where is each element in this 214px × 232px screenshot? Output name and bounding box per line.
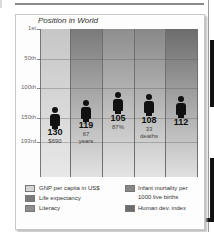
ytick-1st: 1st (12, 25, 36, 31)
legend-swatch-infant (125, 185, 135, 192)
right-black-bar (210, 158, 214, 222)
tick-mark (37, 88, 40, 89)
person-icon (176, 96, 186, 118)
gridline (40, 88, 198, 89)
tick-mark (37, 118, 40, 119)
rank-sublabel: $690 (40, 138, 70, 145)
ytick-150th: 150th (12, 114, 36, 120)
rank-value: 105 (103, 113, 133, 123)
rank-sublabel: years (71, 138, 101, 145)
rank-value: 108 (134, 115, 164, 125)
person-icon (81, 100, 91, 122)
tick-mark (37, 29, 40, 30)
chart-title: Position in World (38, 16, 98, 25)
person-icon (50, 107, 60, 129)
legend-swatch-literacy (25, 205, 35, 212)
column-gnp (40, 29, 71, 177)
legend-label-infant: Infant mortality per (138, 184, 188, 192)
legend-swatch-life (25, 195, 35, 202)
rank-sublabel: deaths (134, 133, 164, 140)
rank-sublabel: 67 (71, 131, 101, 138)
top-rule (15, 3, 204, 5)
legend-label-literacy: Literacy (39, 204, 60, 212)
right-rule (208, 0, 209, 232)
gridline (40, 59, 198, 60)
rank-sublabel: 87% (103, 124, 133, 131)
ytick-193rd: 193rd (12, 138, 36, 144)
ytick-50th: 50th (12, 55, 36, 61)
legend-label-hdi: Human dev. index (138, 204, 186, 212)
legend-swatch-gnp (25, 185, 35, 192)
left-edge-mark (0, 0, 2, 8)
legend-label-infant-2: 1000 live births (138, 193, 178, 201)
right-black-foot (205, 218, 214, 222)
person-icon (144, 94, 154, 116)
ytick-100th: 100th (12, 84, 36, 90)
rank-sublabel: 33 (134, 126, 164, 133)
right-black-bar (210, 40, 214, 107)
legend-label-gnp: GNP per capita in US$ (39, 184, 100, 192)
rank-value: 112 (166, 117, 196, 127)
rank-value: 119 (71, 120, 101, 130)
tick-mark (37, 59, 40, 60)
rank-value: 130 (40, 127, 70, 137)
person-icon (113, 92, 123, 114)
legend-label-life: Life expectancy (39, 194, 81, 202)
legend-swatch-hdi (125, 205, 135, 212)
